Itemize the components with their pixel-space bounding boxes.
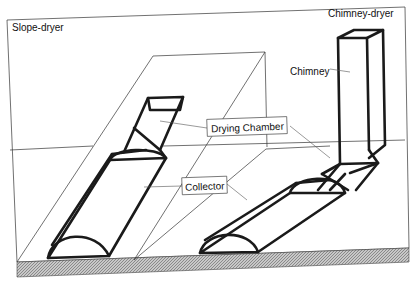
svg-text:Collector: Collector: [185, 180, 225, 192]
chimney-drying-chamber: [318, 163, 378, 190]
title-slope-dryer: Slope-dryer: [12, 22, 64, 33]
slope-collector: [48, 150, 166, 258]
label-collector: Collector: [182, 176, 228, 195]
chimney: [338, 30, 385, 164]
label-drying-chamber: Drying Chamber: [207, 117, 288, 137]
dryer-diagram: Slope-dryer Chimney-dryer Drying Chamber…: [0, 0, 415, 295]
title-chimney-dryer: Chimney-dryer: [328, 8, 394, 19]
slope-drying-chamber: [124, 97, 183, 158]
slope-plane: [17, 52, 267, 262]
label-chimney: Chimney: [290, 66, 329, 77]
